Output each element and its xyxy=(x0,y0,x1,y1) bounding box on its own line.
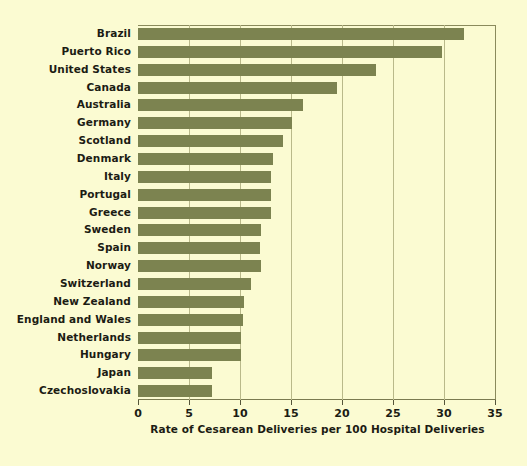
bar-sweden xyxy=(138,224,261,236)
x-tick-mark-25 xyxy=(393,400,394,405)
bar-norway xyxy=(138,260,261,272)
bar-united-states xyxy=(138,64,376,76)
bar-switzerland xyxy=(138,278,251,290)
y-label-portugal: Portugal xyxy=(0,188,131,200)
y-label-hungary: Hungary xyxy=(0,348,131,360)
y-label-norway: Norway xyxy=(0,259,131,271)
y-label-brazil: Brazil xyxy=(0,27,131,39)
x-tick-label-15: 15 xyxy=(276,407,306,420)
bar-japan xyxy=(138,367,212,379)
x-tick-label-0: 0 xyxy=(123,407,153,420)
bar-australia xyxy=(138,99,303,111)
bar-portugal xyxy=(138,189,271,201)
plot-frame-top-border xyxy=(138,25,496,26)
bar-greece xyxy=(138,207,271,219)
x-tick-label-20: 20 xyxy=(327,407,357,420)
y-label-united-states: United States xyxy=(0,63,131,75)
x-tick-label-5: 5 xyxy=(174,407,204,420)
bar-spain xyxy=(138,242,260,254)
plot-frame-right-border xyxy=(495,25,496,400)
y-axis-category-labels: BrazilPuerto RicoUnited StatesCanadaAust… xyxy=(0,23,131,403)
cesarean-rate-bar-chart: BrazilPuerto RicoUnited StatesCanadaAust… xyxy=(0,0,527,466)
gridline-30 xyxy=(444,25,445,400)
y-label-new-zealand: New Zealand xyxy=(0,295,131,307)
y-label-greece: Greece xyxy=(0,206,131,218)
x-tick-mark-5 xyxy=(189,400,190,405)
x-tick-label-30: 30 xyxy=(429,407,459,420)
bar-england-and-wales xyxy=(138,314,243,326)
y-label-australia: Australia xyxy=(0,98,131,110)
y-label-canada: Canada xyxy=(0,81,131,93)
x-tick-mark-15 xyxy=(291,400,292,405)
x-tick-label-35: 35 xyxy=(480,407,510,420)
bar-new-zealand xyxy=(138,296,244,308)
x-tick-label-10: 10 xyxy=(225,407,255,420)
x-tick-mark-20 xyxy=(342,400,343,405)
y-label-denmark: Denmark xyxy=(0,152,131,164)
y-label-puerto-rico: Puerto Rico xyxy=(0,45,131,57)
plot-area xyxy=(138,25,496,400)
x-tick-mark-0 xyxy=(138,400,139,405)
bar-italy xyxy=(138,171,271,183)
x-tick-mark-10 xyxy=(240,400,241,405)
x-axis-title: Rate of Cesarean Deliveries per 100 Hosp… xyxy=(0,423,527,435)
y-label-switzerland: Switzerland xyxy=(0,277,131,289)
bar-puerto-rico xyxy=(138,46,442,58)
bar-germany xyxy=(138,117,292,129)
bar-czechoslovakia xyxy=(138,385,212,397)
y-label-netherlands: Netherlands xyxy=(0,331,131,343)
x-tick-mark-35 xyxy=(495,400,496,405)
bar-scotland xyxy=(138,135,283,147)
y-label-italy: Italy xyxy=(0,170,131,182)
y-label-germany: Germany xyxy=(0,116,131,128)
y-label-scotland: Scotland xyxy=(0,134,131,146)
y-label-sweden: Sweden xyxy=(0,223,131,235)
bar-hungary xyxy=(138,349,241,361)
x-axis-title-text: Rate of Cesarean Deliveries per 100 Hosp… xyxy=(42,423,484,435)
y-label-japan: Japan xyxy=(0,366,131,378)
bar-brazil xyxy=(138,28,464,40)
y-label-czechoslovakia: Czechoslovakia xyxy=(0,384,131,396)
y-label-spain: Spain xyxy=(0,241,131,253)
x-tick-mark-30 xyxy=(444,400,445,405)
bar-netherlands xyxy=(138,332,241,344)
y-label-england-and-wales: England and Wales xyxy=(0,313,131,325)
gridline-20 xyxy=(342,25,343,400)
gridline-25 xyxy=(393,25,394,400)
bar-canada xyxy=(138,82,337,94)
x-tick-label-25: 25 xyxy=(378,407,408,420)
bar-denmark xyxy=(138,153,273,165)
